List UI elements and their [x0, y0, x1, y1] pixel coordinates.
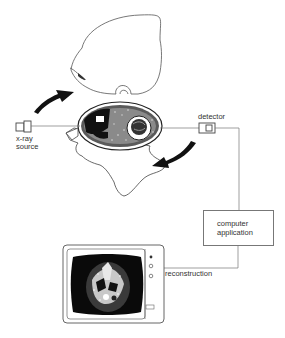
rotation-arrow-up-icon	[34, 90, 74, 114]
head-cross-section-illustration	[66, 102, 164, 196]
reconstructed-scan-image	[86, 262, 130, 312]
detector-icon	[199, 123, 215, 133]
xray-source-icon	[16, 121, 31, 132]
computer-label-line2: application	[217, 229, 253, 238]
head-outline-illustration	[70, 15, 162, 94]
computer-application-box: computer application	[203, 210, 274, 246]
computer-application-label: computer application	[217, 220, 253, 237]
detector-to-computer-line	[215, 128, 239, 210]
reconstruction-label: reconstruction	[165, 270, 212, 278]
detector-label: detector	[198, 113, 225, 121]
ear-detail-icon	[78, 73, 86, 80]
diagram-canvas	[0, 0, 285, 338]
computer-to-monitor-line	[163, 245, 238, 268]
rotation-arrow-down-icon	[152, 141, 196, 168]
xray-source-label: x-ray source	[16, 135, 39, 151]
xray-source-label-line2: source	[16, 143, 39, 151]
